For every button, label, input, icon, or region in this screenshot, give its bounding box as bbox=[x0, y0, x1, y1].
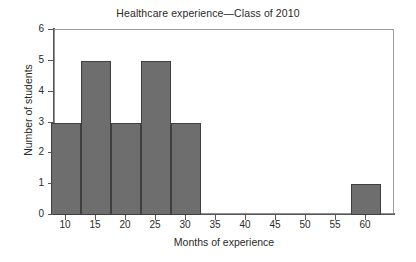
y-axis-tick bbox=[48, 91, 53, 92]
chart-title: Healthcare experience—Class of 2010 bbox=[0, 7, 416, 19]
x-axis-tick-label: 55 bbox=[320, 219, 350, 230]
x-axis-tick-label: 40 bbox=[230, 219, 260, 230]
x-axis-tick-label: 60 bbox=[350, 219, 380, 230]
x-axis-tick-label: 45 bbox=[260, 219, 290, 230]
x-axis-tick-label: 15 bbox=[80, 219, 110, 230]
x-axis-tick-label: 30 bbox=[170, 219, 200, 230]
y-axis-title: Number of students bbox=[22, 30, 34, 190]
y-axis-tick bbox=[48, 152, 53, 153]
histogram-bar bbox=[111, 123, 141, 216]
x-axis-tick-label: 10 bbox=[50, 219, 80, 230]
histogram-bar bbox=[351, 184, 381, 215]
x-axis-title: Months of experience bbox=[54, 236, 394, 248]
y-axis-tick bbox=[48, 60, 53, 61]
y-axis-tick-label: 0 bbox=[22, 208, 44, 219]
histogram-bar bbox=[171, 123, 201, 216]
y-axis-tick bbox=[48, 29, 53, 30]
y-axis-tick bbox=[48, 183, 53, 184]
x-axis-tick-label: 20 bbox=[110, 219, 140, 230]
x-axis-tick-label: 50 bbox=[290, 219, 320, 230]
plot-area bbox=[54, 29, 394, 214]
histogram-bar bbox=[51, 123, 81, 216]
histogram-bar bbox=[141, 61, 171, 215]
y-axis-tick bbox=[48, 214, 53, 215]
histogram-figure: Healthcare experience—Class of 2010 0123… bbox=[0, 0, 416, 262]
histogram-bar bbox=[81, 61, 111, 215]
y-axis-tick bbox=[48, 122, 53, 123]
x-axis-tick-label: 25 bbox=[140, 219, 170, 230]
x-axis-tick-label: 35 bbox=[200, 219, 230, 230]
